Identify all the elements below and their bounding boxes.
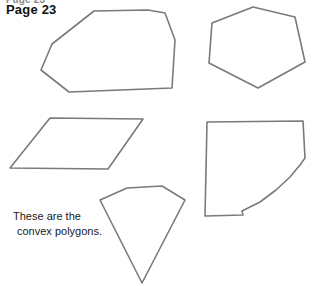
hexagon-top-right: [209, 7, 305, 88]
caption-text: These are the convex polygons.: [13, 209, 135, 239]
curved-quadrilateral-middle-right: [205, 121, 305, 216]
parallelogram-middle-left: [10, 118, 143, 169]
convex-polygons-figure: [0, 0, 312, 286]
worksheet-page: Page 23 Page 23 These are the convex pol…: [0, 0, 312, 286]
caption-line-1: These are the: [13, 209, 135, 224]
heptagon-top-left: [41, 10, 175, 92]
polygon-group: [10, 7, 305, 283]
caption-line-2: convex polygons.: [13, 224, 135, 239]
